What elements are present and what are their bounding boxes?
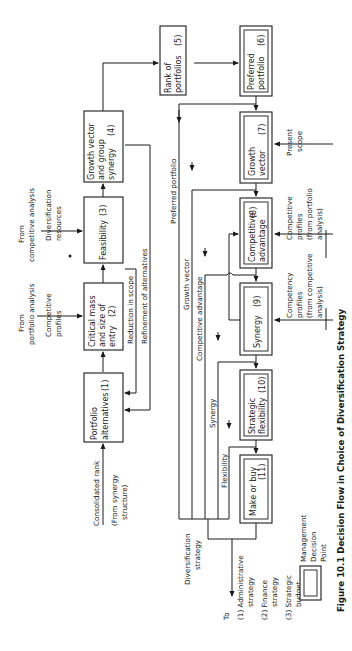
svg-text:Preferred portfolio: Preferred portfolio (169, 159, 178, 224)
svg-text:Figure 10.1 Decision Flow in C: Figure 10.1 Decision Flow in Choice of D… (336, 308, 346, 612)
svg-text:Critical mass: Critical mass (88, 295, 97, 347)
svg-text:profiles: profiles (295, 213, 304, 240)
input-from-portfolio-analysis: From portfolio analysis (17, 283, 36, 345)
box-growth-vector: Growth vector (7) (240, 112, 272, 183)
input-consolidated-rank: Consolidated rank (From synergy structur… (92, 460, 129, 526)
svg-text:profiles: profiles (54, 310, 63, 337)
svg-text:alternatives: alternatives (101, 393, 110, 441)
legend-management-decision-point: Management Decision Point (299, 514, 328, 600)
box-growth-vector-group-synergy: Growth vector and group synergy (4) (84, 111, 123, 182)
svg-text:Flexibility: Flexibility (220, 453, 229, 488)
box-feasibility: Feasibility (3) (84, 197, 123, 263)
svg-text:Management: Management (299, 514, 308, 562)
svg-text:(from competitive: (from competitive (305, 253, 314, 318)
svg-text:scope: scope (295, 130, 304, 152)
svg-text:Synergy: Synergy (208, 398, 217, 428)
svg-text:Growth vector: Growth vector (182, 259, 191, 310)
svg-text:and size of: and size of (98, 303, 107, 347)
svg-text:Competitive advantage: Competitive advantage (195, 276, 204, 361)
svg-text:competitive analysis: competitive analysis (27, 188, 36, 262)
svg-text:To: To (222, 612, 231, 621)
box-competitive-advantage: Competitive advantage (8) (240, 198, 272, 268)
svg-text:profiles: profiles (295, 291, 304, 318)
box-make-or-buy: Make or buy (11) (240, 455, 272, 523)
svg-text:Strategic: Strategic (248, 398, 257, 434)
svg-text:Feasibility: Feasibility (99, 220, 108, 260)
svg-text:(1) Administrative: (1) Administrative (236, 555, 245, 620)
input-competitive-profiles: Competitive profiles (44, 293, 63, 337)
svg-text:Competitive: Competitive (285, 196, 294, 240)
svg-text:portfolios: portfolios (174, 55, 183, 93)
svg-text:advantage: advantage (258, 219, 267, 262)
svg-text:(from portfolio: (from portfolio (305, 188, 314, 240)
svg-text:Growth vector: Growth vector (87, 122, 96, 180)
svg-text:strategy: strategy (246, 576, 255, 607)
svg-text:strategy: strategy (270, 576, 279, 607)
svg-text:resources: resources (54, 206, 63, 241)
input-from-competitive-analysis: From competitive analysis (17, 188, 36, 262)
svg-text:Synergy: Synergy (253, 315, 262, 348)
svg-text:analysis): analysis) (315, 286, 324, 318)
svg-text:flexibility: flexibility (258, 397, 267, 434)
svg-text:Competitive: Competitive (248, 213, 257, 262)
svg-text:(3) Strategic: (3) Strategic (284, 575, 293, 620)
svg-text:(6): (6) (257, 35, 266, 46)
svg-text:Diversification: Diversification (44, 189, 53, 241)
svg-text:(11): (11) (258, 464, 267, 480)
svg-text:(5): (5) (174, 35, 183, 46)
box-synergy: Synergy (9) (240, 283, 272, 355)
svg-text:portfolio analysis: portfolio analysis (27, 283, 36, 345)
svg-text:Present: Present (285, 129, 294, 156)
figure-caption: Figure 10.1 Decision Flow in Choice of D… (336, 308, 346, 612)
arrow-4-to-5 (103, 63, 158, 111)
svg-text:Reduction in scope: Reduction in scope (126, 275, 135, 344)
box-rank-of-portfolios: Rank of portfolios (5) (160, 26, 186, 95)
box-critical-mass: Critical mass and size of entry (2) (84, 283, 123, 350)
box-strategic-flexibility: Strategic flexibility (10) (240, 370, 272, 440)
svg-text:Rank of: Rank of (164, 63, 173, 93)
svg-text:(10): (10) (258, 377, 267, 393)
svg-text:(3): (3) (99, 205, 108, 216)
svg-text:Make or buy: Make or buy (249, 467, 258, 516)
svg-text:(7): (7) (258, 124, 267, 135)
input-diversification-resources: Diversification resources (44, 189, 63, 241)
svg-text:(9): (9) (253, 296, 262, 307)
svg-text:vector: vector (258, 150, 267, 176)
svg-text:and group: and group (97, 139, 106, 180)
feedback-labels: Reduction in scope Refinement of alterna… (126, 248, 149, 344)
svg-text:From: From (17, 314, 26, 332)
arrow-9-to-8 (229, 234, 240, 320)
svg-text:Diversification: Diversification (183, 533, 192, 585)
svg-text:Point: Point (319, 544, 328, 562)
svg-text:Competency: Competency (285, 272, 294, 318)
box-portfolio-alternatives: Portfolio alternatives (1) (84, 373, 123, 442)
svg-text:(2): (2) (108, 306, 117, 317)
svg-text:analysis): analysis) (315, 208, 324, 240)
svg-text:entry: entry (108, 326, 117, 347)
box-preferred-portfolio: Preferred portfolio (6) (240, 26, 272, 96)
svg-text:Consolidated rank: Consolidated rank (92, 460, 101, 526)
svg-text:Portfolio: Portfolio (90, 407, 99, 440)
svg-text:(2) Finance: (2) Finance (260, 579, 269, 620)
svg-text:synergy: synergy (107, 148, 116, 180)
svg-text:(4): (4) (107, 125, 116, 136)
svg-text:Growth: Growth (248, 147, 257, 176)
svg-text:Decision: Decision (309, 531, 318, 562)
flow-labels: Preferred portfolio Growth vector Compet… (169, 159, 229, 585)
svg-text:Refinement of alternatives: Refinement of alternatives (140, 248, 149, 344)
svg-text:(From synergy: (From synergy (110, 474, 119, 526)
outputs: To (1) Administrative strategy (2) Finan… (222, 555, 303, 621)
decision-flow-diagram: Portfolio alternatives (1) Critical mass… (0, 0, 352, 651)
svg-text:structure): structure) (120, 484, 129, 520)
right-inputs: Present scope Competitive profiles (from… (285, 129, 326, 330)
svg-text:(1): (1) (101, 380, 110, 391)
svg-text:From: From (17, 225, 26, 243)
svg-text:portfolio: portfolio (257, 56, 266, 90)
svg-text:strategy: strategy (193, 539, 202, 570)
svg-text:(8): (8) (249, 207, 258, 218)
svg-text:Competitive: Competitive (44, 293, 53, 337)
svg-text:Preferred: Preferred (247, 53, 256, 90)
